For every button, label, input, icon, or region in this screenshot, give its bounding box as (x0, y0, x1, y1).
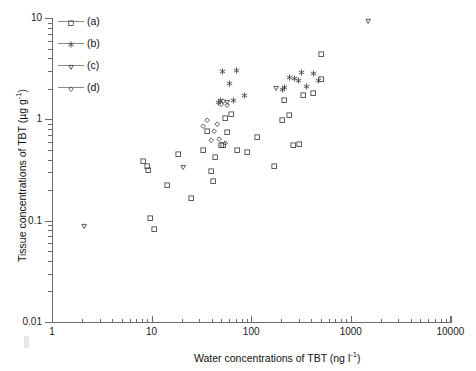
x-axis-title: Water concentrations of TBT (ng l-1) (194, 350, 360, 364)
legend-label: (c) (87, 59, 99, 71)
data-point-d (224, 102, 230, 108)
data-point-a (208, 168, 214, 174)
legend-label: (a) (87, 15, 100, 27)
x-tick-minor (335, 319, 336, 323)
x-tick-minor (221, 319, 222, 323)
y-tick-minor (48, 236, 52, 237)
legend-marker-square-icon (58, 15, 84, 27)
legend-label: (b) (87, 37, 100, 49)
legend-item-b[interactable]: (b) (58, 34, 100, 52)
legend-item-c[interactable]: (c) (58, 56, 99, 74)
data-point-d (222, 140, 228, 146)
data-point-a (234, 147, 240, 153)
y-tick-minor (48, 150, 52, 151)
x-tick-major (351, 316, 352, 323)
y-tick-major (45, 18, 52, 19)
x-tick-minor (112, 319, 113, 323)
x-tick-minor (311, 319, 312, 323)
legend-item-a[interactable]: (a) (58, 12, 100, 30)
y-tick-minor (48, 28, 52, 29)
legend-marker-diamond-icon (58, 81, 84, 93)
x-tick-minor (321, 319, 322, 323)
data-point-a (147, 215, 153, 221)
x-tick-minor (446, 319, 447, 323)
y-tick-minor (48, 190, 52, 191)
y-tick-minor (48, 41, 52, 42)
y-tick-major (45, 221, 52, 222)
y-tick-minor (48, 49, 52, 50)
x-tick-minor (299, 319, 300, 323)
data-point-d (214, 121, 220, 127)
x-tick-label: 10 (122, 327, 182, 337)
data-point-d (204, 117, 210, 123)
y-tick-minor (48, 251, 52, 252)
x-tick-minor (182, 319, 183, 323)
data-point-a (145, 167, 151, 173)
x-tick-minor (82, 319, 83, 323)
y-tick-minor (48, 172, 52, 173)
data-point-c (180, 164, 186, 170)
y-tick-major (45, 322, 52, 323)
y-tick-minor (48, 230, 52, 231)
x-tick-minor (242, 319, 243, 323)
y-tick-minor (48, 274, 52, 275)
data-point-a (210, 178, 216, 184)
x-tick-minor (329, 319, 330, 323)
data-point-c (273, 85, 279, 91)
data-point-a (300, 92, 306, 98)
data-point-b (241, 92, 248, 99)
data-point-a (296, 141, 302, 147)
x-tick-minor (130, 319, 131, 323)
data-point-a (175, 151, 181, 157)
x-tick-minor (136, 319, 137, 323)
legend-marker-triangle-down-icon (58, 59, 84, 71)
y-tick-minor (48, 243, 52, 244)
scatter-plot-figure: 1101001000100000.010.1110 (0, 0, 476, 371)
data-point-a (228, 111, 234, 117)
data-point-b (298, 69, 305, 76)
data-point-a (310, 90, 316, 96)
y-tick-minor (48, 124, 52, 125)
data-point-c (365, 18, 371, 24)
x-tick-minor (247, 319, 248, 323)
data-point-a (200, 147, 206, 153)
data-point-d (200, 123, 206, 129)
data-point-b (281, 84, 288, 91)
x-tick-major (152, 316, 153, 323)
legend-label: (d) (87, 81, 100, 93)
y-tick-label: 10 (0, 13, 42, 23)
y-tick-minor (48, 142, 52, 143)
data-point-c (81, 223, 87, 229)
x-tick-minor (341, 319, 342, 323)
x-tick-major (450, 316, 451, 323)
y-tick-minor (48, 135, 52, 136)
data-point-a (279, 117, 285, 123)
y-tick-minor (48, 23, 52, 24)
y-axis-title: Tissue concentrations of TBT (µg g-1) (14, 89, 28, 262)
data-point-d (211, 128, 217, 134)
data-point-a (212, 154, 218, 160)
x-tick-minor (199, 319, 200, 323)
x-tick-minor (398, 319, 399, 323)
data-point-b (295, 77, 302, 84)
x-tick-minor (381, 319, 382, 323)
legend-item-d[interactable]: (d) (58, 78, 100, 96)
x-tick-major (251, 316, 252, 323)
data-point-a (244, 149, 250, 155)
data-point-b (226, 80, 233, 87)
data-point-a (281, 97, 287, 103)
y-tick-minor (48, 160, 52, 161)
data-point-a (318, 51, 324, 57)
data-point-a (271, 163, 277, 169)
y-tick-minor (48, 291, 52, 292)
x-tick-minor (411, 319, 412, 323)
x-tick-minor (420, 319, 421, 323)
y-tick-label: 0.01 (0, 317, 42, 327)
x-tick-label: 100 (221, 327, 281, 337)
x-tick-minor (428, 319, 429, 323)
data-point-a (286, 112, 292, 118)
legend-marker-asterisk-icon (58, 37, 84, 49)
x-tick-minor (346, 319, 347, 323)
chart-legend: (a)(b) (c) (d) (58, 12, 132, 98)
y-tick-major (45, 119, 52, 120)
